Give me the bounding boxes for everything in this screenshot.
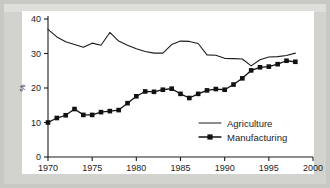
- x-tick-label: 1980: [126, 163, 146, 173]
- data-point-marker: [284, 58, 289, 63]
- y-tick-labels: 010203040: [31, 14, 41, 162]
- legend-label-agriculture: Agriculture: [227, 118, 272, 129]
- chart-legend: AgricultureManufacturing: [199, 118, 287, 143]
- chart-figure: 010203040 1970197519801985199019952000 %…: [0, 0, 330, 188]
- legend-label-manufacturing: Manufacturing: [227, 132, 287, 143]
- data-point-marker: [196, 92, 201, 97]
- data-point-marker: [258, 65, 263, 70]
- x-tick-label: 1985: [170, 163, 190, 173]
- data-point-marker: [169, 86, 174, 91]
- data-point-marker: [205, 88, 210, 93]
- data-point-marker: [125, 101, 130, 106]
- data-point-marker: [161, 87, 166, 92]
- y-axis-title: %: [18, 84, 27, 91]
- x-tick-labels: 1970197519801985199019952000: [38, 163, 323, 173]
- data-point-marker: [275, 62, 280, 67]
- legend-swatch-marker: [207, 134, 212, 139]
- data-point-marker: [90, 113, 95, 118]
- data-series: [46, 29, 298, 124]
- y-tick-label: 0: [36, 152, 41, 162]
- data-point-marker: [81, 113, 86, 118]
- x-tick-label: 1990: [215, 163, 235, 173]
- data-point-marker: [214, 87, 219, 92]
- y-tick-label: 30: [31, 49, 41, 59]
- data-point-marker: [240, 76, 245, 81]
- data-point-marker: [99, 110, 104, 115]
- data-point-marker: [187, 96, 192, 101]
- series-line-agriculture: [48, 29, 295, 66]
- x-tick-label: 2000: [303, 163, 323, 173]
- x-tick-label: 1995: [259, 163, 279, 173]
- data-point-marker: [231, 82, 236, 87]
- data-point-marker: [134, 94, 139, 99]
- x-tick-label: 1975: [82, 163, 102, 173]
- data-point-marker: [55, 116, 60, 121]
- data-point-marker: [72, 107, 77, 112]
- y-tick-label: 10: [31, 118, 41, 128]
- line-chart: 010203040 1970197519801985199019952000 %…: [0, 0, 330, 188]
- data-point-marker: [108, 109, 113, 114]
- y-axis-title-text: %: [18, 84, 27, 91]
- data-point-marker: [63, 113, 68, 118]
- y-tick-label: 20: [31, 83, 41, 93]
- data-point-marker: [152, 90, 157, 95]
- data-point-marker: [293, 59, 298, 64]
- data-point-marker: [116, 108, 121, 113]
- x-tick-label: 1970: [38, 163, 58, 173]
- y-tick-label: 40: [31, 14, 41, 24]
- data-point-marker: [267, 64, 272, 69]
- data-point-marker: [222, 87, 227, 92]
- data-point-marker: [46, 120, 51, 125]
- data-point-marker: [178, 92, 183, 97]
- data-point-marker: [143, 89, 148, 94]
- data-point-marker: [249, 68, 254, 73]
